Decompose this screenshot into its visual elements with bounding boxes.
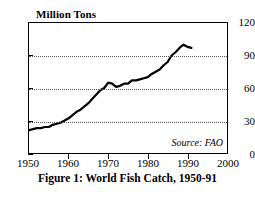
y-tick-mark-90 — [28, 55, 33, 56]
source-annotation: Source: FAO — [172, 137, 223, 148]
x-tick-label-2000: 2000 — [217, 157, 239, 169]
y-axis-title: Million Tons — [36, 8, 96, 20]
figure-world-fish-catch: Million Tons Source: FAO Figure 1: World… — [0, 0, 255, 200]
y-tick-mark-60 — [28, 88, 33, 89]
y-tick-label-30: 30 — [229, 115, 255, 127]
y-tick-label-90: 90 — [229, 49, 255, 61]
plot-area — [28, 22, 228, 154]
y-tick-label-120: 120 — [229, 16, 255, 28]
series-world-fish-catch — [29, 45, 191, 131]
x-tick-mark-1990 — [188, 154, 189, 159]
y-tick-mark-120 — [28, 22, 33, 23]
x-tick-mark-1960 — [68, 154, 69, 159]
y-tick-label-60: 60 — [229, 82, 255, 94]
x-tick-mark-1980 — [148, 154, 149, 159]
x-tick-label-1950: 1950 — [17, 157, 39, 169]
gridline-y-60 — [29, 89, 227, 90]
gridline-y-90 — [29, 56, 227, 57]
y-tick-mark-30 — [28, 121, 33, 122]
gridline-y-30 — [29, 122, 227, 123]
x-tick-mark-1970 — [108, 154, 109, 159]
figure-caption: Figure 1: World Fish Catch, 1950-91 — [0, 172, 255, 184]
data-line-series — [29, 23, 227, 153]
y-tick-mark-0 — [28, 154, 33, 155]
